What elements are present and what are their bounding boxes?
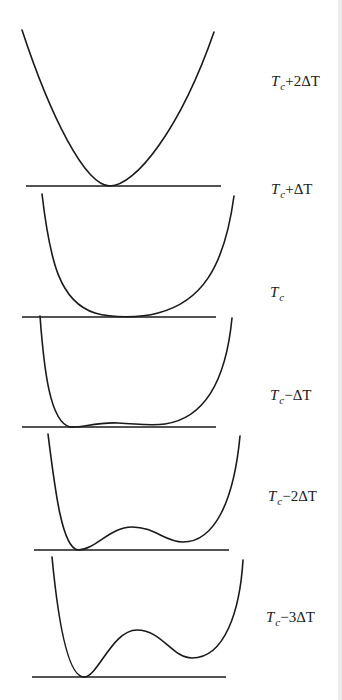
free-energy-curve-1 (42, 194, 234, 317)
temperature-label-tc-plus-dt: Tc+ΔT (271, 182, 313, 197)
curves-group (22, 30, 243, 677)
temperature-label-tc: Tc (270, 285, 284, 300)
free-energy-curves-figure (0, 0, 342, 700)
free-energy-curve-0 (22, 30, 214, 186)
free-energy-curve-4 (52, 557, 243, 677)
temperature-label-tc-plus-2dt: Tc+2ΔT (271, 74, 320, 89)
temperature-label-tc-minus-3dt: Tc−3ΔT (266, 610, 315, 625)
page-edge-strip (338, 0, 342, 700)
free-energy-curve-3 (48, 434, 240, 550)
temperature-label-tc-minus-2dt: Tc−2ΔT (268, 489, 317, 504)
free-energy-curve-2 (40, 316, 232, 427)
temperature-label-tc-minus-dt: Tc−ΔT (270, 388, 312, 403)
